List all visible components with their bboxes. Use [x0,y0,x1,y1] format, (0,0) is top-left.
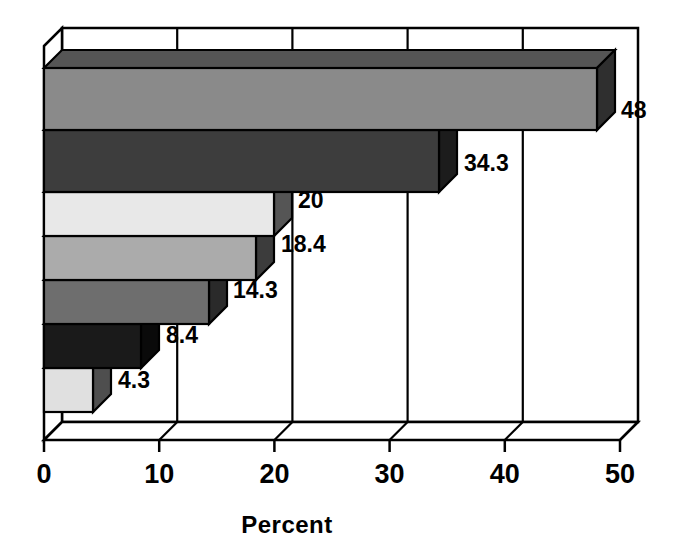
value-label-8-4: 8.4 [166,322,198,348]
value-label-20: 20 [298,187,324,213]
bar-front-face [44,68,597,130]
x-axis-title: Percent [241,511,333,538]
value-label-4-3: 4.3 [118,367,150,393]
plot-floor [44,422,638,440]
bar-front-face [44,130,439,192]
x-tick-label-0: 0 [36,459,51,489]
bar-top-face [44,50,615,68]
x-tick-label-40: 40 [490,459,520,489]
value-label-34-3: 34.3 [464,150,509,176]
bar-front-face [44,192,274,236]
bar-front-face [44,236,256,280]
axis-ticks [44,440,620,452]
bar-front-face [44,280,209,324]
x-tick-label-10: 10 [144,459,174,489]
bar-chart-figure: 48 34.3 20 18.4 14.3 8.4 4.3 0 10 20 30 … [0,0,680,558]
x-tick-label-30: 30 [375,459,405,489]
bar-front-face [44,324,141,368]
chart-canvas: 48 34.3 20 18.4 14.3 8.4 4.3 0 10 20 30 … [0,0,680,558]
x-axis-tick-labels: 0 10 20 30 40 50 [36,459,635,489]
x-tick-label-50: 50 [605,459,635,489]
value-label-14-3: 14.3 [233,277,278,303]
x-tick-label-20: 20 [259,459,289,489]
bar-front-face [44,368,93,412]
bar-48 [44,50,615,130]
value-label-48: 48 [621,97,647,123]
value-label-18-4: 18.4 [281,231,326,257]
